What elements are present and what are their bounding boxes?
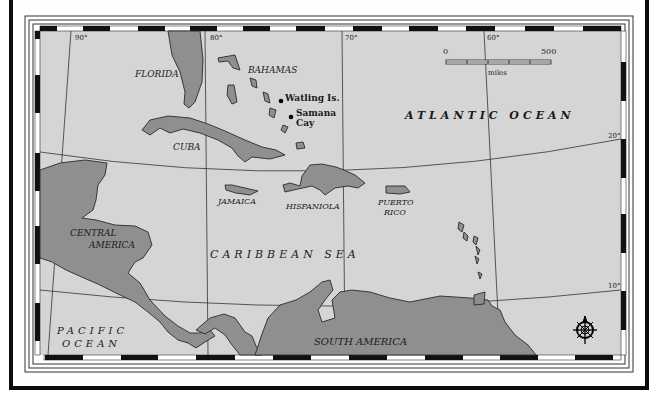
scale-bar-end-label: 500: [541, 48, 556, 56]
samana-dot: [289, 115, 294, 120]
label-florida: FLORIDA: [135, 70, 179, 79]
label-samana-cay-line2: Cay: [296, 119, 314, 128]
label-pacific-ocean-line2: OCEAN: [62, 339, 121, 349]
label-samana-cay-line1: Samana: [296, 109, 336, 118]
longitude-label-70: 70°: [345, 35, 357, 42]
label-pacific-ocean-line1: PACIFIC: [57, 326, 128, 336]
label-south-america: SOUTH AMERICA: [314, 337, 407, 347]
label-central-america-line2: AMERICA: [89, 241, 135, 250]
land-bahamas-7: [296, 142, 305, 149]
bottom-scale-bar: [44, 355, 621, 360]
latitude-label-20: 20°: [608, 133, 620, 140]
right-scale-bar: [621, 31, 626, 355]
longitude-label-90: 90°: [75, 35, 87, 42]
land-puerto-rico: [386, 186, 410, 194]
label-caribbean-sea: CARIBBEAN SEA: [210, 249, 360, 260]
scale-bar-start-label: 0: [443, 48, 448, 56]
scale-bar-unit-label: miles: [488, 70, 507, 77]
longitude-label-60: 60°: [487, 35, 499, 42]
label-jamaica: JAMAICA: [218, 198, 256, 206]
top-scale-bar: [40, 26, 621, 31]
left-scale-bar: [35, 31, 40, 355]
label-central-america-line1: CENTRAL: [70, 229, 117, 238]
watling-dot: [279, 99, 284, 104]
label-cuba: CUBA: [173, 143, 201, 152]
distance-scale-bar: [446, 60, 551, 64]
latitude-label-10: 10°: [608, 283, 620, 290]
label-puerto-rico-line1: PUERTO: [378, 199, 414, 207]
label-puerto-rico-line2: RICO: [384, 209, 406, 217]
label-watling-island: Watling Is.: [285, 94, 340, 103]
longitude-label-80: 80°: [210, 35, 222, 42]
label-hispaniola: HISPANIOLA: [286, 203, 340, 211]
label-bahamas: BAHAMAS: [248, 66, 297, 75]
label-atlantic-ocean: ATLANTIC OCEAN: [405, 110, 575, 121]
